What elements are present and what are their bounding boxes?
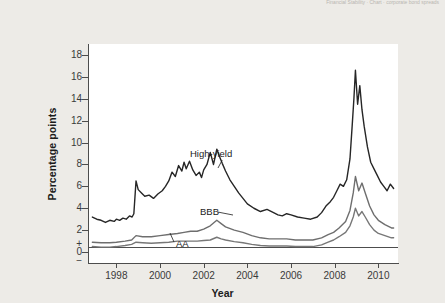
annotation-aa: AA (176, 239, 189, 249)
figure-corporate-bond-spreads: 181614121086420+− Percentage points 1998… (0, 5, 445, 303)
annotation-bbb: BBB (200, 207, 219, 217)
leader-line-aa (170, 233, 174, 242)
leader-line-bbb (218, 212, 233, 215)
annotation-high-yield: High-yield (190, 149, 232, 159)
leader-line-high-yield (218, 160, 222, 168)
